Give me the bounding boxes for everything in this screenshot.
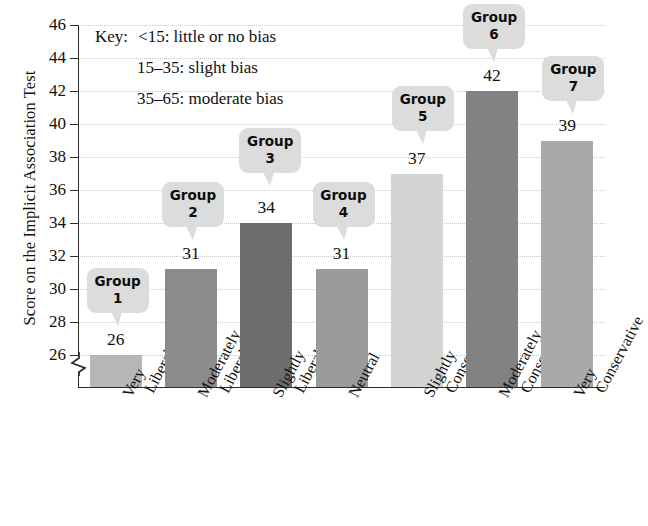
group-callout: Group2 — [162, 182, 224, 227]
y-tick-label: 40 — [28, 115, 66, 132]
group-callout: Group6 — [463, 4, 525, 49]
callout-tail-icon — [566, 100, 577, 114]
y-tick-label: 30 — [28, 280, 66, 297]
group-callout-number: 1 — [87, 290, 149, 307]
bar[interactable] — [391, 174, 443, 388]
group-callout-word: Group — [463, 9, 525, 26]
bar-value-label: 39 — [541, 115, 593, 136]
callout-tail-icon — [337, 226, 348, 240]
y-tick-label: 32 — [28, 247, 66, 264]
y-tick-label: 38 — [28, 148, 66, 165]
callout-tail-icon — [416, 130, 427, 144]
group-callout: Group1 — [87, 268, 149, 313]
key-line-3: 35–65: moderate bias — [95, 90, 283, 107]
callout-tail-icon — [487, 48, 498, 62]
group-callout-number: 3 — [239, 150, 301, 167]
group-callout-number: 7 — [542, 78, 604, 95]
group-callout-number: 6 — [463, 26, 525, 43]
gridline — [78, 157, 605, 158]
key-label: Key: — [95, 27, 128, 46]
bar-value-label: 34 — [240, 197, 292, 218]
group-callout-word: Group — [239, 133, 301, 150]
y-tick-label: 36 — [28, 181, 66, 198]
group-callout-number: 5 — [392, 108, 454, 125]
key-line-2: 15–35: slight bias — [95, 59, 283, 76]
y-tick-label: 44 — [28, 49, 66, 66]
group-callout-number: 2 — [162, 204, 224, 221]
y-tick-label: 26 — [28, 346, 66, 363]
callout-tail-icon — [263, 172, 274, 186]
bar[interactable] — [466, 91, 518, 387]
callout-tail-icon — [111, 312, 122, 326]
key-text-2: 15–35: slight bias — [137, 58, 258, 77]
group-callout-word: Group — [542, 61, 604, 78]
group-callout-word: Group — [162, 187, 224, 204]
y-tick-label: 46 — [28, 16, 66, 33]
bar-value-label: 26 — [90, 329, 142, 350]
y-tick-label: 34 — [28, 214, 66, 231]
gridline — [78, 124, 605, 125]
group-callout: Group5 — [392, 86, 454, 131]
bar-value-label: 37 — [391, 148, 443, 169]
key-text-1: <15: little or no bias — [138, 27, 276, 46]
key-line-1: Key:<15: little or no bias — [95, 28, 283, 45]
bar-value-label: 31 — [316, 243, 368, 264]
group-callout: Group7 — [542, 56, 604, 101]
key-text-3: 35–65: moderate bias — [137, 89, 283, 108]
group-callout-word: Group — [87, 273, 149, 290]
key-legend: Key:<15: little or no bias 15–35: slight… — [95, 28, 283, 121]
group-callout-word: Group — [313, 187, 375, 204]
bar-value-label: 31 — [165, 243, 217, 264]
axis-break-icon — [70, 352, 88, 376]
y-tick-label: 42 — [28, 82, 66, 99]
group-callout-word: Group — [392, 91, 454, 108]
group-callout: Group3 — [239, 128, 301, 173]
callout-tail-icon — [186, 226, 197, 240]
y-axis-line — [78, 25, 79, 355]
group-callout: Group4 — [313, 182, 375, 227]
bar[interactable] — [541, 141, 593, 388]
bar-value-label: 42 — [466, 65, 518, 86]
y-tick-label: 28 — [28, 313, 66, 330]
group-callout-number: 4 — [313, 204, 375, 221]
gridline — [78, 25, 605, 26]
